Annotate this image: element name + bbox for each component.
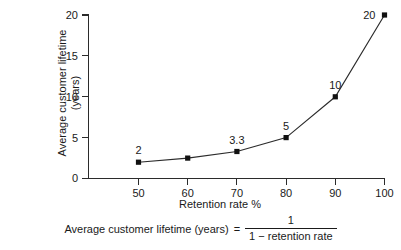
formula-equals-sign: = (234, 223, 240, 235)
data-point-marker (284, 135, 289, 140)
x-tick-label-80: 80 (280, 187, 292, 199)
data-point-marker (136, 160, 141, 165)
data-point-label: 5 (283, 120, 289, 132)
data-point-markers (136, 12, 387, 164)
y-tick-label-10: 10 (66, 91, 78, 103)
x-axis-ticks (139, 179, 385, 186)
x-tick-label-90: 90 (329, 187, 341, 199)
plot-area: 0 5 10 15 20 50 60 70 80 90 100 (0, 0, 401, 215)
data-point-marker (382, 12, 387, 17)
chart-figure: Average customer lifetime (years) 0 5 10… (0, 0, 401, 250)
x-axis-tick-labels: 50 60 70 80 90 100 (132, 187, 393, 199)
data-point-marker (185, 156, 190, 161)
data-point-label: 3.3 (229, 134, 244, 146)
data-point-label: 10 (329, 79, 341, 91)
y-axis-ticks (82, 15, 89, 179)
data-point-label: 20 (363, 9, 375, 21)
series-line-average-customer-lifetime (139, 15, 385, 162)
formula-left-side: Average customer lifetime (years) (64, 223, 228, 235)
x-tick-label-50: 50 (132, 187, 144, 199)
y-tick-label-5: 5 (72, 132, 78, 144)
data-point-labels: 23.351020 (135, 9, 375, 156)
y-tick-label-15: 15 (66, 50, 78, 62)
formula-fraction: 1 1 − retention rate (245, 214, 336, 243)
formula-numerator: 1 (280, 214, 302, 228)
data-point-label: 2 (135, 144, 141, 156)
y-axis-tick-labels: 0 5 10 15 20 (66, 9, 78, 184)
y-tick-label-0: 0 (72, 172, 78, 184)
formula-caption: Average customer lifetime (years) = 1 1 … (0, 214, 401, 243)
x-axis-title: Retention rate % (179, 198, 261, 210)
data-point-marker (333, 94, 338, 99)
data-point-marker (234, 149, 239, 154)
y-tick-label-20: 20 (66, 9, 78, 21)
x-tick-label-100: 100 (375, 187, 393, 199)
formula-denominator: 1 − retention rate (245, 229, 336, 243)
